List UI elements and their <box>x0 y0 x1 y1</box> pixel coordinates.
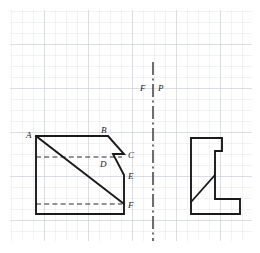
technical-drawing-figure: A B C D E F F P <box>0 0 260 253</box>
vertex-label-b: B <box>101 125 107 135</box>
fold-line-label-front: F <box>139 83 146 93</box>
vertex-label-a: A <box>25 130 32 140</box>
vertex-label-f: F <box>127 200 134 210</box>
drawing-canvas: A B C D E F F P <box>0 0 260 253</box>
vertex-label-d: D <box>99 159 107 169</box>
vertex-label-e: E <box>127 171 134 181</box>
fold-line-label-profile: P <box>157 83 164 93</box>
vertex-label-c: C <box>128 150 135 160</box>
